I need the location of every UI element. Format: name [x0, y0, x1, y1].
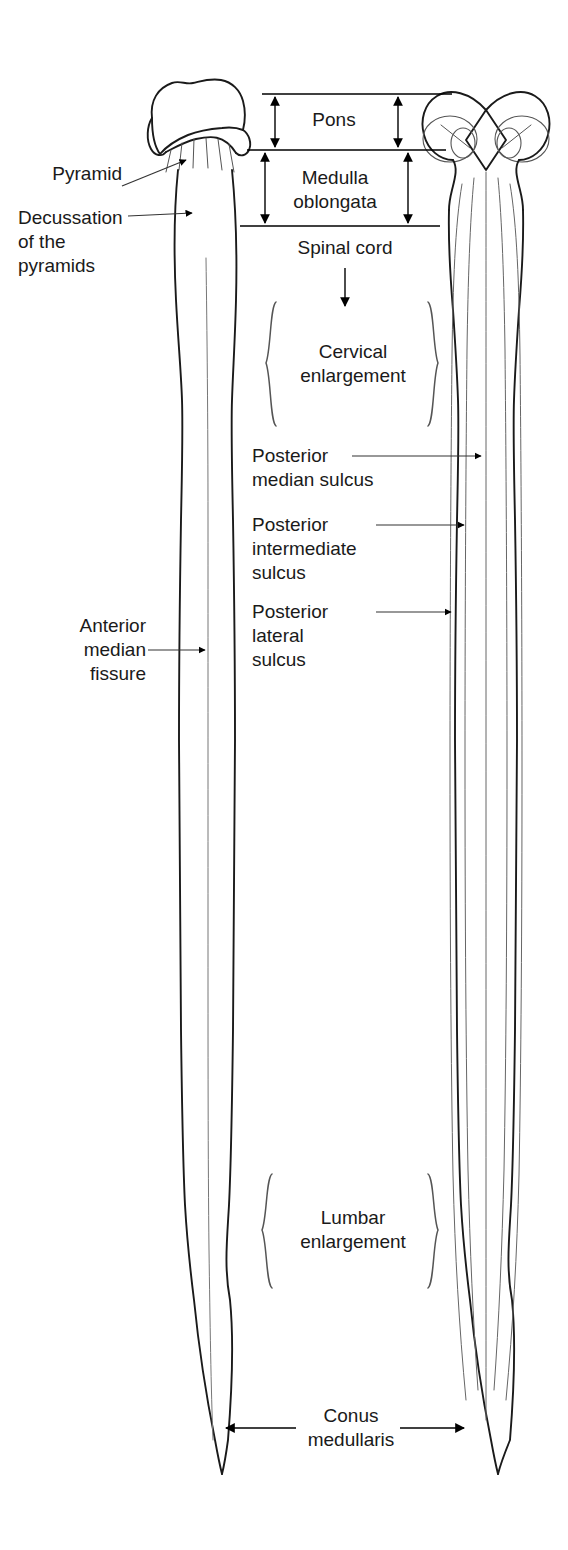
- posterior-intermediate-sulcus-line-right: [494, 178, 507, 1390]
- cord-outline-anterior-left: [175, 170, 222, 1474]
- label-pyramid: Pyramid: [10, 162, 122, 186]
- pons-anterior: [152, 79, 245, 154]
- cord-outline-posterior-left: [449, 210, 498, 1474]
- cord-outline-posterior-right: [498, 210, 523, 1474]
- posterior-sulci-lines: [450, 172, 522, 1420]
- cerebellar-peduncle-right: [486, 92, 549, 160]
- pons-lateral-lobe-right: [236, 130, 250, 155]
- anterior-view-figure: [148, 79, 250, 1474]
- anterior-median-fissure-line: [206, 258, 213, 1440]
- label-cervical-enlargement: Cervical enlargement: [290, 340, 416, 388]
- label-anterior-median-fissure: Anterior median fissure: [10, 614, 146, 686]
- label-lumbar-enlargement: Lumbar enlargement: [290, 1206, 416, 1254]
- label-medulla-oblongata: Medulla oblongata: [280, 166, 390, 214]
- fourth-ventricle-diamond: [466, 110, 506, 170]
- peduncle-lobe-right: [495, 116, 549, 162]
- label-posterior-median-sulcus: Posterior median sulcus: [252, 444, 412, 492]
- label-posterior-intermediate-sulcus: Posterior intermediate sulcus: [252, 513, 412, 585]
- peduncle-lobe-left: [423, 116, 477, 162]
- lumbar-bracket-right: [428, 1174, 438, 1288]
- label-conus-medullaris: Conus medullaris: [296, 1404, 406, 1452]
- label-spinal-cord: Spinal cord: [282, 236, 408, 260]
- medulla-flare-posterior-right: [516, 160, 523, 210]
- label-pons: Pons: [288, 108, 380, 132]
- medulla-flare-anterior: [166, 137, 236, 153]
- posterior-view-figure: [423, 92, 550, 1474]
- peduncle-fiber-lines: [441, 125, 531, 148]
- posterior-lateral-sulcus-line-left: [450, 184, 466, 1400]
- cord-outline-anterior-right: [222, 170, 236, 1474]
- lumbar-bracket-left: [262, 1174, 272, 1288]
- label-decussation-of-the-pyramids: Decussation of the pyramids: [18, 206, 168, 278]
- cervical-bracket-right: [428, 302, 438, 426]
- posterior-lateral-sulcus-line-right: [506, 184, 522, 1400]
- posterior-intermediate-sulcus-line-left: [465, 178, 478, 1390]
- pontine-fiber-lines: [166, 138, 234, 172]
- cervical-bracket-left: [266, 302, 276, 426]
- medulla-flare-posterior-left: [449, 160, 456, 210]
- label-posterior-lateral-sulcus: Posterior lateral sulcus: [252, 600, 412, 672]
